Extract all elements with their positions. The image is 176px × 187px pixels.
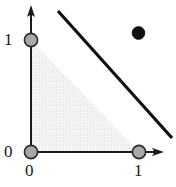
y-axis-tick-label-zero: 0 bbox=[4, 143, 13, 160]
figure-container: 1 0 0 1 bbox=[0, 0, 176, 187]
y-axis-tick-label-one: 1 bbox=[4, 31, 13, 48]
gray-point-y-one bbox=[24, 33, 37, 46]
gray-point-origin bbox=[24, 145, 37, 158]
gray-point-x-one bbox=[132, 145, 145, 158]
x-axis-tick-label-zero: 0 bbox=[25, 162, 34, 179]
black-point bbox=[132, 27, 145, 40]
x-axis-tick-label-one: 1 bbox=[134, 162, 143, 179]
plot-canvas bbox=[0, 0, 176, 187]
unit-simplex-region bbox=[31, 40, 139, 152]
